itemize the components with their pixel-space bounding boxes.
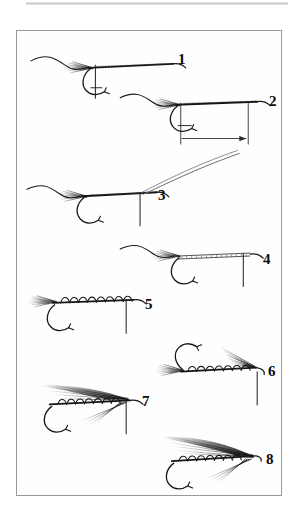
step-figure-5 (29, 296, 146, 334)
step-figure-6 (156, 344, 264, 406)
step-figure-4 (120, 245, 263, 286)
step-figure-2 (120, 94, 270, 144)
step-number-6: 6 (268, 364, 276, 379)
step-number-7: 7 (142, 394, 150, 409)
fly-tying-diagram-svg (17, 31, 281, 495)
scan-artifact-band (26, 2, 288, 5)
step-figure-3 (27, 150, 239, 226)
step-number-4: 4 (263, 252, 271, 267)
illustration-plate: 1 2 3 4 5 6 7 8 (16, 30, 282, 496)
step-number-5: 5 (145, 297, 153, 312)
step-figure-7 (41, 383, 143, 434)
step-figure-8 (162, 435, 261, 489)
step-number-1: 1 (178, 52, 186, 67)
step-number-3: 3 (158, 188, 166, 203)
step-number-8: 8 (266, 452, 274, 467)
step-number-2: 2 (269, 94, 277, 109)
step-figure-1 (31, 57, 186, 99)
